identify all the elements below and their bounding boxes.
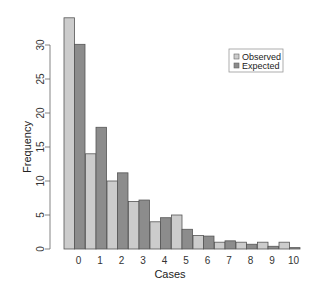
bar-expected-3 [139,200,150,249]
x-tick-label: 7 [226,255,232,266]
bar-observed-3 [129,201,140,249]
bar-expected-9 [268,246,279,249]
bar-observed-5 [172,215,183,249]
bar-observed-10 [279,242,290,249]
bar-observed-7 [215,242,226,249]
x-tick-label: 10 [288,255,300,266]
y-tick-label: 0 [35,246,46,252]
x-tick-label: 8 [248,255,254,266]
y-tick-label: 15 [35,141,46,153]
bar-observed-8 [236,242,247,249]
bar-observed-2 [107,181,118,249]
bar-expected-10 [290,248,301,249]
bar-expected-8 [247,244,258,249]
y-tick-label: 5 [35,212,46,218]
x-tick-label: 9 [269,255,275,266]
bar-expected-2 [118,173,129,249]
x-axis-tick-labels: 012345678910 [76,255,300,266]
bar-expected-5 [182,229,193,249]
y-axis-title: Frequency [21,121,33,173]
x-tick-label: 1 [97,255,103,266]
bar-observed-1 [86,154,97,249]
legend: Observed Expected [229,49,283,72]
y-axis: 051015202530 [35,39,50,252]
bar-observed-0 [64,18,75,249]
bar-observed-6 [193,235,204,249]
legend-swatch-observed [234,54,239,59]
bar-expected-0 [75,44,86,249]
x-axis-title: Cases [154,268,186,280]
legend-label-expected: Expected [242,61,280,71]
x-tick-label: 3 [140,255,146,266]
x-tick-label: 0 [76,255,82,266]
x-tick-label: 4 [162,255,168,266]
x-tick-label: 2 [119,255,125,266]
x-tick-label: 5 [183,255,189,266]
x-tick-label: 6 [205,255,211,266]
bar-observed-9 [258,242,269,249]
bar-chart: 051015202530 012345678910 Cases Frequenc… [0,0,319,298]
bar-observed-4 [150,222,161,249]
y-tick-label: 30 [35,39,46,51]
bar-expected-4 [161,218,172,249]
bar-expected-1 [96,127,107,249]
y-tick-label: 25 [35,73,46,85]
bar-expected-7 [225,241,236,249]
bar-expected-6 [204,236,215,249]
y-tick-label: 10 [35,175,46,187]
y-tick-label: 20 [35,107,46,119]
legend-swatch-expected [234,63,239,68]
